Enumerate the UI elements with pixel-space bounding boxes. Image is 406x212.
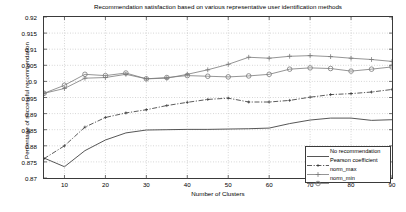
- x-tick-label: 10: [61, 181, 68, 188]
- x-tick-label: 60: [266, 181, 273, 188]
- chart-figure: Recommendation satisfaction based on var…: [0, 0, 406, 212]
- legend-swatch-plus-icon: [306, 165, 330, 174]
- legend-label: norm_min: [330, 174, 355, 183]
- y-tick-label: 0.88: [25, 142, 37, 149]
- y-tick-label: 0.87: [25, 175, 37, 182]
- x-tick-label: 40: [184, 181, 191, 188]
- series-norm-max: [44, 53, 392, 95]
- y-tick-label: 0.91: [25, 46, 37, 53]
- y-tick-label: 0.875: [22, 158, 37, 165]
- y-tick-label: 0.89: [25, 110, 37, 117]
- chart-legend: No recommendationPearson coefficientnorm…: [305, 146, 391, 183]
- legend-swatch-line-icon: [306, 147, 330, 156]
- y-tick-label: 0.92: [25, 14, 37, 21]
- chart-title: Recommendation satisfaction based on var…: [43, 3, 393, 10]
- series-norm-min: [44, 65, 392, 96]
- x-tick-label: 30: [143, 181, 150, 188]
- y-axis-ticks: 0.870.8750.880.8850.890.8950.90.9050.910…: [0, 16, 41, 179]
- legend-item[interactable]: No recommendation: [306, 147, 390, 156]
- legend-item[interactable]: Pearson coefficient: [306, 156, 390, 165]
- y-tick-label: 0.905: [22, 62, 37, 69]
- y-tick-label: 0.885: [22, 126, 37, 133]
- legend-label: Pearson coefficient: [330, 156, 377, 165]
- legend-swatch-plus-icon: [306, 156, 330, 165]
- legend-item[interactable]: norm_min: [306, 174, 390, 183]
- y-tick-label: 0.9: [28, 78, 37, 85]
- legend-swatch-circle-icon: [306, 174, 330, 183]
- y-tick-label: 0.915: [22, 30, 37, 37]
- x-axis-label: Number of Clusters: [43, 190, 393, 197]
- x-tick-label: 20: [102, 181, 109, 188]
- legend-label: norm_max: [330, 165, 356, 174]
- y-tick-label: 0.895: [22, 94, 37, 101]
- x-tick-label: 50: [225, 181, 232, 188]
- legend-label: No recommendation: [330, 147, 380, 156]
- legend-item[interactable]: norm_max: [306, 165, 390, 174]
